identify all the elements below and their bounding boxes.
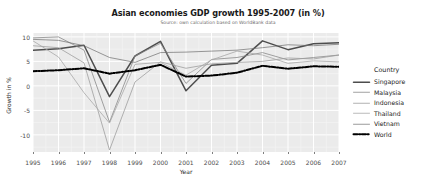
- x-tick-label: 2000: [153, 159, 168, 166]
- legend-key-icon: [352, 129, 371, 140]
- x-tick-mark: [339, 152, 340, 154]
- x-tick-mark: [110, 152, 111, 154]
- x-tick-mark: [84, 152, 85, 154]
- legend-key-icon: [352, 87, 371, 98]
- y-tick-label: -10: [20, 131, 30, 138]
- chart-title: Asian economies GDP growth 1995-2007 (in…: [0, 8, 436, 18]
- x-tick-label: 1996: [51, 159, 66, 166]
- y-tick-label: 10: [22, 33, 30, 40]
- x-tick-mark: [135, 152, 136, 154]
- legend-key-icon: [352, 119, 371, 130]
- y-axis-title: Growth in %: [5, 66, 12, 126]
- plot-lines: [33, 33, 339, 152]
- x-tick-label: 1999: [127, 159, 142, 166]
- x-tick-label: 2006: [306, 159, 321, 166]
- x-tick-mark: [263, 152, 264, 154]
- x-tick-label: 1998: [102, 159, 117, 166]
- legend: Country SingaporeMalaysiaIndonesiaThaila…: [352, 66, 436, 140]
- x-tick-mark: [186, 152, 187, 154]
- x-tick-mark: [161, 152, 162, 154]
- legend-item-thailand[interactable]: Thailand: [352, 108, 436, 119]
- x-tick-label: 2005: [280, 159, 295, 166]
- legend-label: Indonesia: [374, 99, 404, 106]
- x-tick-mark: [288, 152, 289, 154]
- x-tick-label: 2007: [331, 159, 346, 166]
- y-tick-label: -5: [24, 107, 30, 114]
- y-tick-label: 0: [26, 82, 30, 89]
- legend-item-singapore[interactable]: Singapore: [352, 77, 436, 88]
- x-tick-mark: [33, 152, 34, 154]
- legend-label: Singapore: [374, 78, 405, 85]
- x-tick-label: 1995: [25, 159, 40, 166]
- legend-item-world[interactable]: World: [352, 129, 436, 140]
- legend-key-icon: [352, 108, 371, 119]
- chart-subtitle: Source: own calculation based on WorldBa…: [0, 20, 436, 25]
- y-tick-label: 5: [26, 58, 30, 65]
- legend-label: World: [374, 131, 392, 138]
- legend-key-icon: [352, 98, 371, 109]
- x-tick-mark: [212, 152, 213, 154]
- x-tick-mark: [59, 152, 60, 154]
- legend-label: Malaysia: [374, 89, 401, 96]
- legend-item-malaysia[interactable]: Malaysia: [352, 87, 436, 98]
- legend-item-indonesia[interactable]: Indonesia: [352, 98, 436, 109]
- x-tick-mark: [314, 152, 315, 154]
- x-tick-label: 2002: [204, 159, 219, 166]
- chart-container: Asian economies GDP growth 1995-2007 (in…: [0, 0, 436, 190]
- legend-item-vietnam[interactable]: Vietnam: [352, 119, 436, 130]
- legend-label: Thailand: [374, 110, 401, 117]
- x-tick-label: 2004: [255, 159, 270, 166]
- legend-title: Country: [374, 66, 436, 74]
- x-axis-title: Year: [33, 168, 339, 175]
- x-tick-mark: [237, 152, 238, 154]
- x-tick-label: 1997: [76, 159, 91, 166]
- x-tick-label: 2003: [229, 159, 244, 166]
- legend-key-icon: [352, 77, 371, 88]
- legend-label: Vietnam: [374, 120, 400, 127]
- plot-panel: [33, 33, 339, 152]
- x-tick-label: 2001: [178, 159, 193, 166]
